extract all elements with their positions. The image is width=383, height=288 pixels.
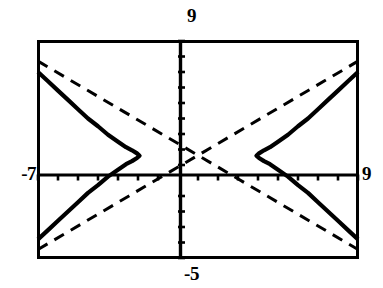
asymptote-lines-group (38, 61, 358, 249)
x-min-label: -7 (2, 164, 36, 183)
plot-window-frame (39, 42, 358, 258)
hyperbola-right-branch (256, 72, 358, 239)
asymptote-positive-slope (38, 61, 358, 249)
hyperbola-curves-group (38, 72, 358, 239)
asymptote-negative-slope (38, 61, 358, 249)
graph-figure: 9 -5 -7 9 (0, 0, 383, 288)
y-max-label: 9 (0, 6, 383, 25)
y-min-label: -5 (0, 264, 383, 283)
plot-canvas (0, 0, 383, 288)
x-max-label: 9 (362, 164, 382, 183)
hyperbola-left-branch (38, 72, 140, 239)
